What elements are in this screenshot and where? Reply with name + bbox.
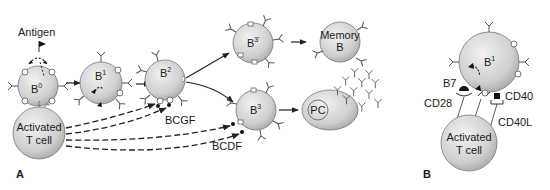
tcell-a-line2: T cell [26,134,52,146]
cell-b0: B0 [8,58,68,106]
memory-line1: Memory [320,29,360,41]
cd40-label: CD40 [505,90,533,102]
cell-b1: B1 [74,52,132,109]
bcgf-arrow-1 [66,104,155,128]
cell-b2: B2 [136,50,187,108]
pc-label: PC [310,104,325,116]
cell-b3prime: B3' [225,15,283,68]
tcell-b-line1: Activated [446,131,491,143]
antigen-flag-icon [39,41,46,52]
memory-line2: B [336,41,343,53]
cell-memory-b: Memory B [312,22,367,67]
panel-b-label: B [423,168,431,180]
antigen-label: Antigen [18,26,55,38]
arrow-b2-b3prime [186,53,229,78]
panel-a: Antigen B0 [8,15,382,180]
cell-b3: B3 [226,82,283,140]
cell-plasma: PC [302,68,382,130]
b-cell-activation-diagram: Antigen B0 [0,0,550,190]
bcgf-arrow-2 [66,108,166,134]
arrow-b2-b3 [186,82,233,102]
panel-b: B1 B7 CD28 CD40 CD40L Activated T cell [423,22,533,180]
cd28-label: CD28 [424,97,452,109]
tcell-a-line1: Activated [16,121,61,133]
bcdf-arrow-1 [66,126,230,140]
cell-activated-t-a: Activated T cell [13,101,65,159]
cell-activated-t-b: Activated T cell [441,115,497,171]
bcdf-label: BCDF [212,140,242,152]
tcell-b-line2: T cell [456,144,482,156]
b7-label: B7 [443,77,456,89]
bcgf-label: BCGF [165,114,196,126]
panel-a-label: A [16,168,24,180]
cd40l-label: CD40L [498,116,532,128]
